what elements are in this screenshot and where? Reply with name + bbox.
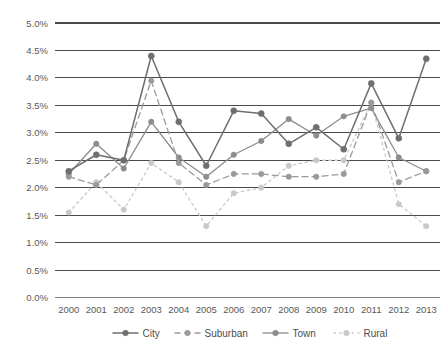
data-point xyxy=(121,166,126,171)
gridlines xyxy=(55,23,440,298)
legend-item-rural[interactable]: Rural xyxy=(364,328,388,339)
data-point xyxy=(396,201,401,206)
y-axis-tick-labels: 0.0%0.5%1.0%1.5%2.0%2.5%3.0%3.5%4.0%4.5%… xyxy=(26,18,48,304)
legend-marker xyxy=(344,330,350,336)
data-point xyxy=(204,182,209,187)
data-point xyxy=(286,163,291,168)
y-axis-tick-label: 2.0% xyxy=(26,182,48,193)
y-axis-tick-label: 1.5% xyxy=(26,210,48,221)
data-point xyxy=(204,223,209,228)
chart-legend: CitySuburbanTownRural xyxy=(113,328,388,339)
data-point xyxy=(148,53,154,59)
legend-marker xyxy=(273,330,279,336)
data-point xyxy=(341,146,347,152)
data-point xyxy=(314,174,319,179)
y-axis-tick-label: 4.5% xyxy=(26,45,48,56)
data-point xyxy=(231,152,236,157)
series-rural xyxy=(66,100,429,229)
x-axis-tick-label: 2002 xyxy=(113,304,134,315)
data-point xyxy=(259,138,264,143)
y-axis-tick-label: 3.0% xyxy=(26,127,48,138)
x-axis-tick-label: 2005 xyxy=(196,304,217,315)
y-axis-tick-label: 4.0% xyxy=(26,72,48,83)
x-axis-tick-label: 2009 xyxy=(306,304,327,315)
legend-item-suburban[interactable]: Suburban xyxy=(205,328,248,339)
data-point xyxy=(258,111,264,117)
data-point xyxy=(314,133,319,138)
x-axis-tick-label: 2007 xyxy=(251,304,272,315)
data-point xyxy=(94,141,99,146)
data-series-group xyxy=(66,53,430,229)
data-point xyxy=(314,158,319,163)
data-point xyxy=(176,180,181,185)
data-point xyxy=(149,78,154,83)
data-point xyxy=(66,168,72,174)
data-point xyxy=(121,157,127,163)
legend-marker xyxy=(185,330,191,336)
x-axis-tick-label: 2003 xyxy=(141,304,162,315)
data-point xyxy=(231,108,237,114)
data-point xyxy=(286,141,292,147)
data-point xyxy=(313,124,319,130)
y-axis-tick-label: 3.5% xyxy=(26,100,48,111)
data-point xyxy=(66,210,71,215)
x-axis-tick-label: 2001 xyxy=(86,304,107,315)
y-axis-tick-label: 2.5% xyxy=(26,155,48,166)
y-axis-tick-label: 1.0% xyxy=(26,237,48,248)
data-point xyxy=(424,169,429,174)
data-point xyxy=(396,135,402,141)
data-point xyxy=(231,190,236,195)
data-point xyxy=(259,185,264,190)
series-line xyxy=(69,56,427,171)
data-point xyxy=(93,152,99,158)
legend-item-city[interactable]: City xyxy=(143,328,160,339)
x-axis-tick-label: 2004 xyxy=(168,304,189,315)
x-axis-tick-label: 2013 xyxy=(416,304,437,315)
y-axis-tick-label: 0.0% xyxy=(26,292,48,303)
data-point xyxy=(341,114,346,119)
data-point xyxy=(203,163,209,169)
data-point xyxy=(259,171,264,176)
data-point xyxy=(94,182,99,187)
data-point xyxy=(121,207,126,212)
data-point xyxy=(286,174,291,179)
data-point xyxy=(423,56,429,62)
data-point xyxy=(204,174,209,179)
x-axis-tick-label: 2000 xyxy=(58,304,79,315)
data-point xyxy=(341,171,346,176)
y-axis-tick-label: 0.5% xyxy=(26,265,48,276)
data-point xyxy=(149,119,154,124)
data-point xyxy=(66,174,71,179)
x-axis-tick-label: 2006 xyxy=(223,304,244,315)
x-axis-tick-labels: 2000200120022003200420052006200720082009… xyxy=(58,304,437,315)
data-point xyxy=(396,180,401,185)
data-point xyxy=(424,223,429,228)
x-axis-tick-label: 2008 xyxy=(278,304,299,315)
y-axis-tick-label: 5.0% xyxy=(26,18,48,29)
line-chart: 0.0%0.5%1.0%1.5%2.0%2.5%3.0%3.5%4.0%4.5%… xyxy=(0,0,444,356)
chart-canvas: 0.0%0.5%1.0%1.5%2.0%2.5%3.0%3.5%4.0%4.5%… xyxy=(0,0,444,356)
data-point xyxy=(231,171,236,176)
x-axis-tick-label: 2011 xyxy=(361,304,381,315)
data-point xyxy=(396,155,401,160)
data-point xyxy=(176,160,181,165)
legend-marker xyxy=(123,330,129,336)
x-axis-tick-label: 2012 xyxy=(388,304,409,315)
series-town xyxy=(66,105,429,179)
x-axis-tick-label: 2010 xyxy=(333,304,354,315)
data-point xyxy=(176,119,182,125)
legend-item-town[interactable]: Town xyxy=(293,328,316,339)
data-point xyxy=(149,160,154,165)
data-point xyxy=(368,80,374,86)
data-point xyxy=(341,158,346,163)
data-point xyxy=(369,100,374,105)
data-point xyxy=(286,116,291,121)
